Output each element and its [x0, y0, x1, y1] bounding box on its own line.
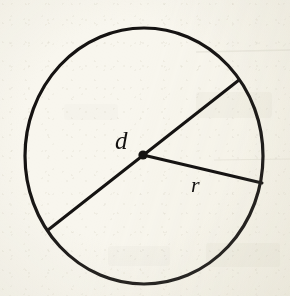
radius-label: r	[191, 174, 200, 196]
center-point	[138, 150, 147, 159]
circle-diagram-figure: d r	[0, 0, 290, 296]
bleed-through-marks	[64, 50, 290, 267]
circle-diagram-svg	[0, 0, 290, 296]
diameter-label: d	[115, 128, 128, 153]
